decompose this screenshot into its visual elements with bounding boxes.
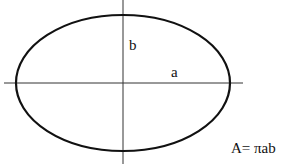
- semi-minor-axis-label: b: [129, 37, 137, 53]
- semi-major-axis-label: a: [171, 64, 178, 80]
- area-formula: A= πab: [231, 140, 276, 156]
- ellipse-diagram: b a A= πab: [0, 0, 282, 164]
